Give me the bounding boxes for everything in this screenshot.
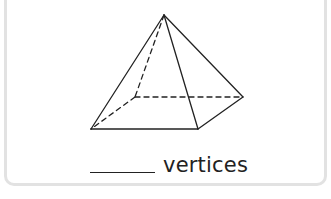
hidden-edge-apex-back-left (135, 15, 164, 97)
edge-right-base (198, 97, 243, 129)
answer-row: vertices (90, 151, 248, 177)
edge-apex-front-left (91, 15, 164, 129)
answer-blank[interactable] (90, 172, 155, 173)
answer-label: vertices (163, 153, 248, 177)
hidden-edge-left-base (91, 97, 135, 129)
